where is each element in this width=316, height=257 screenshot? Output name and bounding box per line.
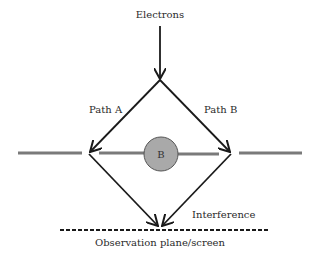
interferometer-diagram: Electrons Path A Path B B Interference O… bbox=[0, 0, 316, 257]
region-b-label: B bbox=[157, 149, 164, 160]
observation-screen-label: Observation plane/screen bbox=[95, 237, 226, 248]
path-b-label: Path B bbox=[204, 104, 237, 115]
path-a-label: Path A bbox=[89, 104, 123, 115]
electrons-label: Electrons bbox=[136, 9, 184, 20]
interference-label: Interference bbox=[192, 209, 255, 220]
